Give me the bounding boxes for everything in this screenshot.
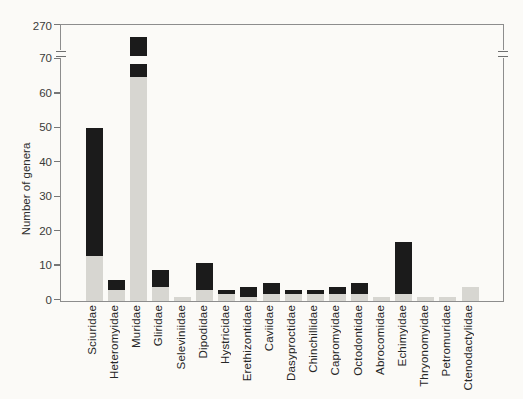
x-tick-label: Caviidae <box>263 305 275 351</box>
y-tick <box>54 264 60 265</box>
bar-segment-grey <box>307 294 324 301</box>
bar-chinchillidae <box>307 290 324 300</box>
bar-segment-black <box>86 128 103 255</box>
bar-seleviniidae <box>174 297 191 300</box>
axis-break-marker <box>498 56 509 57</box>
bar-segment-black <box>395 242 412 294</box>
x-tick-label: Hystricidae <box>219 305 231 364</box>
bar-heteromyidae <box>108 280 125 301</box>
bar-segment-black <box>196 263 213 291</box>
y-tick <box>54 161 60 162</box>
y-tick-label: 70 <box>0 52 52 64</box>
y-tick <box>54 24 60 25</box>
x-tick-label: Muridae <box>130 305 142 348</box>
bar-segment-grey <box>395 294 412 301</box>
bar-segment-grey <box>462 287 479 301</box>
bar-segment-black <box>130 64 147 77</box>
y-tick <box>54 92 60 93</box>
bar-segment-black <box>108 280 125 290</box>
bar-segment-grey <box>373 297 390 300</box>
bar-segment-grey <box>174 297 191 300</box>
bar-segment-grey <box>351 294 368 301</box>
bar-segment-grey <box>285 294 302 301</box>
bar-dasyproctidae <box>285 290 302 300</box>
y-tick-label: 50 <box>0 121 52 133</box>
bar-thryonomyidae <box>417 297 434 300</box>
bar-caviidae <box>263 283 280 300</box>
bar-segment-grey <box>439 297 456 300</box>
x-tick-label: Gliridae <box>152 305 164 346</box>
bar-segment-grey <box>196 290 213 300</box>
y-tick-label: 40 <box>0 156 52 168</box>
bar-segment-grey <box>417 297 434 300</box>
y-tick <box>54 230 60 231</box>
bar-segment-black <box>240 287 257 297</box>
bar-segment-grey <box>329 294 346 301</box>
x-tick-label: Capromyidae <box>329 305 341 376</box>
bar-segment-grey <box>130 77 147 301</box>
bar-segment-gap <box>130 56 147 64</box>
bar-segment-black <box>329 287 346 294</box>
axis-break-marker <box>498 51 509 52</box>
x-tick-label: Dipodidae <box>197 305 209 359</box>
bar-segment-black <box>152 270 169 287</box>
plot-area <box>60 24 504 302</box>
bar-petromuridae <box>439 297 456 300</box>
bar-segment-grey <box>263 294 280 301</box>
bar-hystricidae <box>218 290 235 300</box>
bar-muridae <box>130 37 147 301</box>
y-tick-label: 10 <box>0 259 52 271</box>
y-tick <box>54 196 60 197</box>
y-tick-label: 30 <box>0 190 52 202</box>
axis-break-marker <box>56 56 67 57</box>
bar-segment-grey <box>240 297 257 300</box>
bar-ctenodactylidae <box>462 287 479 301</box>
x-tick-label: Erethizontidae <box>241 305 253 381</box>
bar-segment-grey <box>152 287 169 301</box>
x-tick-label: Octodontidae <box>352 305 364 376</box>
x-tick-label: Chinchillidae <box>307 305 319 373</box>
y-tick-label: 60 <box>0 87 52 99</box>
x-tick-label: Thryonomyidae <box>418 305 430 387</box>
y-tick <box>54 58 60 59</box>
bar-segment-grey <box>86 256 103 301</box>
x-tick-label: Seleviniidae <box>175 305 187 369</box>
bar-dipodidae <box>196 263 213 301</box>
x-tick-label: Echimyidae <box>396 305 408 366</box>
x-tick-label: Dasyproctidae <box>285 305 297 381</box>
x-tick-label: Abrocomidae <box>374 305 386 375</box>
x-tick-label: Petromuridae <box>440 305 452 376</box>
x-tick-label: Ctenodactylidae <box>462 305 474 390</box>
bar-abrocomidae <box>373 297 390 300</box>
bar-segment-black <box>351 283 368 293</box>
y-tick-label-270: 270 <box>0 20 52 32</box>
bar-sciuridae <box>86 128 103 300</box>
chart: Number of genera 010203040506070270Sciur… <box>0 0 523 399</box>
bar-segment-black <box>263 283 280 293</box>
x-tick-label: Sciuridae <box>86 305 98 355</box>
bar-gliridae <box>152 270 169 301</box>
x-tick-label: Heteromyidae <box>108 305 120 379</box>
bar-echimyidae <box>395 242 412 301</box>
bar-capromyidae <box>329 287 346 301</box>
y-tick-label: 0 <box>0 294 52 306</box>
y-tick <box>54 299 60 300</box>
bar-segment-grey <box>218 294 235 301</box>
bar-octodontidae <box>351 283 368 300</box>
axis-break-marker <box>56 51 67 52</box>
bar-segment-grey <box>108 290 125 300</box>
y-tick <box>54 127 60 128</box>
bar-erethizontidae <box>240 287 257 301</box>
bar-segment-black <box>130 37 147 57</box>
y-tick-label: 20 <box>0 225 52 237</box>
